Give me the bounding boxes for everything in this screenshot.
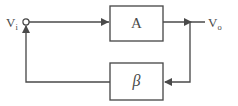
summing-junction-node[interactable] [23,19,29,25]
forward-gain-block-label: A [131,15,142,31]
output-port-subscript: o [217,22,221,32]
wire-feedback-to-summing-node [26,26,110,82]
wire-output-tap-to-feedback [165,22,190,82]
arrowhead-into-feedback-block [164,78,172,86]
diagram-canvas: A β Vi Vo [0,0,238,106]
arrowhead-at-output-tap [184,18,192,26]
input-port-label: Vi [6,15,18,32]
arrowhead-into-amplifier [101,18,109,26]
arrowhead-into-summing-node [22,25,30,33]
input-port-subscript: i [15,22,18,32]
output-port-label: Vo [208,15,222,32]
feedback-gain-block-label: β [132,72,141,90]
feedback-amplifier-diagram: A β Vi Vo [0,0,238,106]
